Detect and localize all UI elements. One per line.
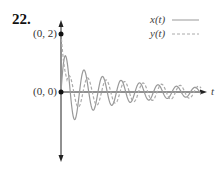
legend-y-label: y(t) [150,27,165,39]
y-axis-down-arrow-icon [59,155,64,162]
point-0-2 [59,32,64,37]
t-axis-arrow-icon [200,90,207,95]
t-axis-label: t [211,85,214,97]
x-curve [61,56,201,120]
legend-x-label: x(t) [150,13,165,25]
y-curve [61,34,201,107]
label-point-0-2: (0, 2) [33,27,57,39]
y-axis-up-arrow-icon [59,20,64,27]
label-origin: (0, 0) [33,85,57,97]
point-origin [59,90,64,95]
